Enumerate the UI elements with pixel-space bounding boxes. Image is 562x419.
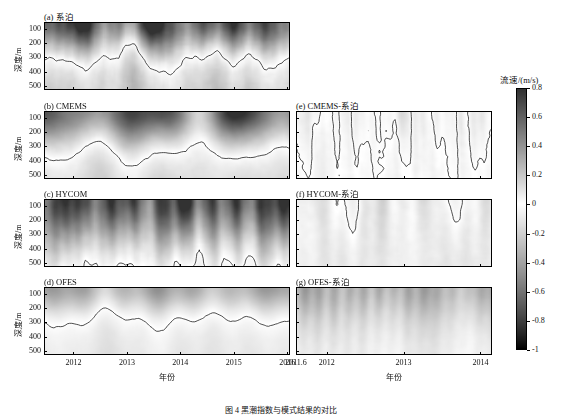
figure-kuroshio-comparison: (a) 系泊100200300400500深度/m(b) CMEMS100200… <box>0 0 562 419</box>
y-tick-label-b-0: 100 <box>20 114 41 122</box>
x-tick-g-2 <box>404 352 405 355</box>
x-tick-d-3 <box>234 352 235 355</box>
y-tick-label-b-3: 400 <box>20 157 41 165</box>
y-tick-c-0 <box>44 206 47 207</box>
colorbar-tick-0 <box>527 88 530 89</box>
x-tick-label-d-2: 2014 <box>162 359 198 367</box>
x-tick-e-2 <box>404 176 405 179</box>
y-axis-label-c: 深度/m <box>12 225 23 249</box>
y-tick-label-c-1: 200 <box>20 216 41 224</box>
x-tick-b-1 <box>127 176 128 179</box>
x-tick-c-3 <box>234 264 235 267</box>
x-tick-c-4 <box>287 264 288 267</box>
panel-title-b: (b) CMEMS <box>44 101 87 111</box>
figure-caption: 图 4 黑潮指数与模式结果的对比 <box>0 404 562 415</box>
y-tick-b-0 <box>44 118 47 119</box>
colorbar-tick-label-7: -0.6 <box>532 288 545 296</box>
x-tick-c-1 <box>127 264 128 267</box>
colorbar-tick-label-6: -0.4 <box>532 259 545 267</box>
y-tick-b-3 <box>44 161 47 162</box>
y-tick-label-d-0: 100 <box>20 290 41 298</box>
y-tick-label-a-2: 300 <box>20 53 41 61</box>
x-tick-b-4 <box>287 176 288 179</box>
y-tick-f-1 <box>296 220 299 221</box>
y-tick-d-4 <box>44 351 47 352</box>
x-tick-a-1 <box>127 87 128 90</box>
colorbar-tick-6 <box>527 263 530 264</box>
x-tick-f-2 <box>404 264 405 267</box>
y-tick-b-4 <box>44 175 47 176</box>
x-tick-g-3 <box>480 352 481 355</box>
x-tick-a-3 <box>234 87 235 90</box>
y-tick-label-b-1: 200 <box>20 128 41 136</box>
y-tick-b-1 <box>44 132 47 133</box>
colorbar-tick-label-4: 0 <box>532 200 536 208</box>
y-tick-d-3 <box>44 337 47 338</box>
x-tick-d-1 <box>127 352 128 355</box>
x-tick-label-d-3: 2015 <box>216 359 252 367</box>
x-tick-c-0 <box>73 264 74 267</box>
panel-title-d: (d) OFES <box>44 277 77 287</box>
colorbar-tick-label-5: -0.2 <box>532 230 545 238</box>
y-tick-label-a-3: 400 <box>20 68 41 76</box>
y-tick-label-a-4: 500 <box>20 82 41 90</box>
colorbar-tick-label-2: 0.4 <box>532 142 542 150</box>
y-tick-a-2 <box>44 57 47 58</box>
y-tick-g-3 <box>296 337 299 338</box>
colorbar-gradient <box>517 89 526 349</box>
y-tick-c-1 <box>44 220 47 221</box>
y-tick-d-0 <box>44 294 47 295</box>
panel-title-c: (c) HYCOM <box>44 189 87 199</box>
colorbar-tick-label-9: -1 <box>532 346 539 354</box>
colorbar-tick-label-8: -0.8 <box>532 317 545 325</box>
zero-contour-c <box>45 200 290 267</box>
y-tick-f-0 <box>296 206 299 207</box>
y-tick-a-4 <box>44 86 47 87</box>
zero-contour-e <box>297 112 492 179</box>
y-tick-g-0 <box>296 294 299 295</box>
y-tick-c-3 <box>44 249 47 250</box>
y-tick-f-3 <box>296 249 299 250</box>
panel-title-e: (e) CMEMS-系泊 <box>296 101 359 111</box>
x-tick-e-3 <box>480 176 481 179</box>
zero-contour-a <box>45 23 290 90</box>
y-tick-a-1 <box>44 43 47 44</box>
y-tick-e-1 <box>296 132 299 133</box>
y-tick-d-2 <box>44 322 47 323</box>
x-tick-g-1 <box>327 352 328 355</box>
y-tick-label-d-3: 400 <box>20 333 41 341</box>
plot-area-c <box>44 199 290 267</box>
x-tick-a-4 <box>287 87 288 90</box>
y-tick-e-0 <box>296 118 299 119</box>
plot-area-f <box>296 199 492 267</box>
x-tick-f-3 <box>480 264 481 267</box>
x-axis-label-g: 年份 <box>296 371 492 382</box>
x-tick-label-g-1: 2012 <box>309 359 345 367</box>
x-tick-f-1 <box>327 264 328 267</box>
plot-area-g <box>296 287 492 355</box>
colorbar-tick-label-0: 0.8 <box>532 84 542 92</box>
y-tick-b-2 <box>44 146 47 147</box>
panel-title-a: (a) 系泊 <box>44 12 74 22</box>
y-tick-c-4 <box>44 263 47 264</box>
plot-area-d <box>44 287 290 355</box>
y-tick-label-a-0: 100 <box>20 25 41 33</box>
zero-contour-b <box>45 112 290 179</box>
y-tick-label-c-2: 300 <box>20 230 41 238</box>
x-tick-label-d-0: 2012 <box>55 359 91 367</box>
colorbar-tick-9 <box>527 350 530 351</box>
y-tick-label-d-1: 200 <box>20 304 41 312</box>
y-axis-label-b: 深度/m <box>12 137 23 161</box>
x-tick-label-d-1: 2013 <box>109 359 145 367</box>
y-tick-label-d-4: 500 <box>20 347 41 355</box>
colorbar-tick-3 <box>527 175 530 176</box>
y-tick-e-3 <box>296 161 299 162</box>
plot-area-b <box>44 111 290 179</box>
y-tick-c-2 <box>44 234 47 235</box>
x-tick-b-0 <box>73 176 74 179</box>
x-tick-a-0 <box>73 87 74 90</box>
y-tick-e-2 <box>296 146 299 147</box>
y-tick-label-c-4: 500 <box>20 259 41 267</box>
y-tick-f-2 <box>296 234 299 235</box>
colorbar-tick-5 <box>527 234 530 235</box>
